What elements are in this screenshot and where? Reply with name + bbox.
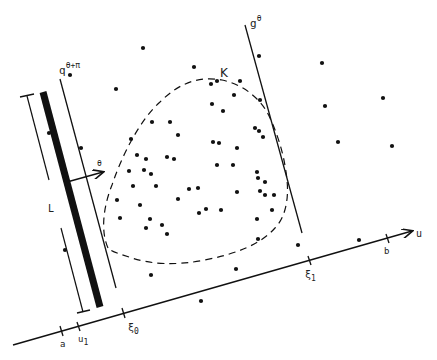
point-dot [296,243,300,247]
point-dot [165,232,169,236]
point-dot [192,65,196,69]
label-l: L [48,203,54,214]
point-dot [197,211,201,215]
point-dot [211,140,215,144]
point-dot [142,168,146,172]
point-dot [258,189,262,193]
point-dot [47,131,51,135]
point-dot [323,104,327,108]
point-dot [176,197,180,201]
point-dot [235,146,239,150]
point-dot [235,190,239,194]
point-dot [79,146,83,150]
point-dot [234,267,238,271]
point-dot [255,217,259,221]
point-dot [357,238,361,242]
point-dot [115,198,119,202]
point-dot [129,137,133,141]
point-dot [209,82,213,86]
point-dot [149,273,153,277]
point-dot [253,126,257,130]
point-dot [199,299,203,303]
point-dot [231,163,235,167]
point-dot [63,248,67,252]
sample-points [47,46,394,303]
point-dot [221,109,225,113]
label-k: K [220,66,229,80]
point-dot [232,93,236,97]
point-dot [165,155,169,159]
point-dot [127,169,131,173]
point-dot [261,135,265,139]
label-theta-arrow: θ [97,159,102,168]
label-u1: u1 [78,334,88,347]
label-g-theta: gθ [250,14,262,30]
point-dot [256,176,260,180]
diagram-canvas: K gθ qθ+π θ L u a u1 ξ0 ξ1 b [0,0,437,360]
point-dot [381,96,385,100]
point-dot [256,237,260,241]
point-dot [210,102,214,106]
convex-set-k-outline [104,79,288,264]
label-b: b [384,246,389,256]
point-dot [215,163,219,167]
point-dot [217,141,221,145]
point-dot [257,129,261,133]
point-dot [390,144,394,148]
point-dot [320,61,324,65]
diagram: K gθ qθ+π θ L u a u1 ξ0 ξ1 b [0,0,437,360]
point-dot [68,73,72,77]
point-dot [149,172,153,176]
point-dot [263,193,267,197]
point-dot [270,208,274,212]
point-dot [154,184,158,188]
label-a: a [60,339,65,349]
axis-u [13,231,412,345]
point-dot [131,184,135,188]
point-dot [118,216,122,220]
point-dot [215,79,219,83]
point-dot [255,170,259,174]
point-dot [168,120,172,124]
point-dot [144,157,148,161]
point-dot [172,157,176,161]
point-dot [258,98,262,102]
point-dot [238,79,242,83]
point-dot [160,223,164,227]
point-dot [272,193,276,197]
length-bracket-bottom-cap [77,310,90,313]
point-dot [114,87,118,91]
point-dot [176,133,180,137]
label-xi1: ξ1 [305,269,316,283]
point-dot [204,207,208,211]
point-dot [135,153,139,157]
label-xi0: ξ0 [128,322,139,336]
point-dot [196,186,200,190]
point-dot [257,54,261,58]
point-dot [336,140,340,144]
point-dot [141,46,145,50]
point-dot [144,226,148,230]
point-dot [219,208,223,212]
point-dot [187,187,191,191]
label-u-axis: u [416,228,422,239]
point-dot [138,203,142,207]
point-dot [150,120,154,124]
point-dot [263,180,267,184]
point-dot [148,217,152,221]
